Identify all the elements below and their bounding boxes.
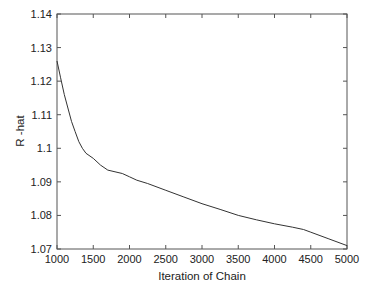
y-tick-label: 1.08 <box>31 209 52 221</box>
y-tick-label: 1.11 <box>31 109 52 121</box>
x-tick-label: 4500 <box>299 253 323 265</box>
y-tick-label: 1.14 <box>31 8 52 20</box>
y-tick-label: 1.12 <box>31 75 52 87</box>
x-tick-label: 5000 <box>335 253 359 265</box>
x-axis-label: Iteration of Chain <box>158 270 246 282</box>
x-tick-label: 2500 <box>154 253 178 265</box>
x-tick-label: 3000 <box>190 253 214 265</box>
x-tick-label: 4000 <box>262 253 286 265</box>
x-tick-label: 2000 <box>117 253 141 265</box>
y-axis-label: R -hat <box>14 115 26 147</box>
y-tick-label: 1.09 <box>31 176 52 188</box>
axes-box <box>57 14 347 249</box>
plot-area <box>57 14 347 249</box>
x-tick-label: 1000 <box>45 253 69 265</box>
x-tick-label: 1500 <box>81 253 105 265</box>
y-tick-label: 1.13 <box>31 42 52 54</box>
x-tick-label: 3500 <box>226 253 250 265</box>
y-tick-label: 1.1 <box>37 142 52 154</box>
chart: 1.071.081.091.11.111.121.131.14 10001500… <box>0 0 376 293</box>
